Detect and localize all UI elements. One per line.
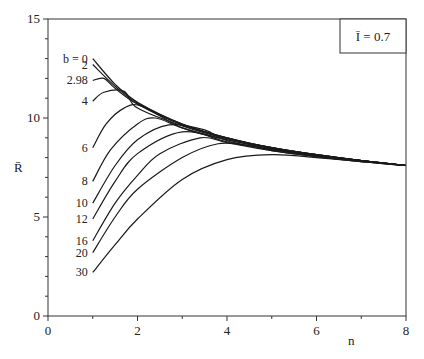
series-line xyxy=(93,125,406,204)
y-tick-label: 0 xyxy=(34,308,41,323)
x-tick-label: 2 xyxy=(134,323,141,338)
x-tick-label: 6 xyxy=(313,323,320,338)
series-label: 2 xyxy=(82,58,88,72)
series-line xyxy=(93,143,406,253)
series-label: 4 xyxy=(82,94,88,108)
series-labels: b = 022.984681012162030 xyxy=(63,52,88,280)
x-axis-label: n xyxy=(348,333,355,348)
y-axis-label: R̄ xyxy=(14,160,23,175)
series-label: 20 xyxy=(76,246,88,260)
series-line xyxy=(93,137,406,240)
y-tick-label: 10 xyxy=(27,110,40,125)
y-tick-label: 5 xyxy=(34,209,41,224)
annotation-text: Ī = 0.7 xyxy=(356,29,391,44)
series-label: 2.98 xyxy=(67,73,88,87)
x-tick-label: 4 xyxy=(224,323,231,338)
series-line xyxy=(93,90,406,166)
x-tick-label: 0 xyxy=(45,323,52,338)
series-label: 30 xyxy=(76,265,88,279)
series-label: 8 xyxy=(82,174,88,188)
chart-container: 02468051015 b = 022.984681012162030 Ī = … xyxy=(0,0,424,359)
line-chart: 02468051015 b = 022.984681012162030 Ī = … xyxy=(0,0,424,359)
annotation-box: Ī = 0.7 xyxy=(340,19,406,53)
series-label: 12 xyxy=(76,212,88,226)
plot-frame xyxy=(48,19,406,316)
series-group xyxy=(93,59,406,273)
x-tick-label: 8 xyxy=(403,323,410,338)
series-line xyxy=(93,59,406,166)
series-line xyxy=(93,65,406,166)
y-tick-label: 15 xyxy=(27,11,40,26)
series-label: 10 xyxy=(76,196,88,210)
series-line xyxy=(93,118,406,182)
series-label: 6 xyxy=(82,141,88,155)
